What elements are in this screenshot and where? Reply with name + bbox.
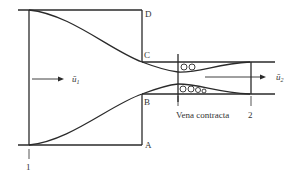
label-vena-contracta: Vena contracta	[176, 110, 229, 120]
u1-arrowhead-icon	[58, 77, 64, 82]
lower-jet-boundary	[178, 84, 250, 94]
upper-eddies-icon	[181, 64, 195, 70]
label-section-2: 2	[248, 110, 253, 120]
label-u1: ū1	[72, 74, 80, 85]
label-u2: ū2	[276, 72, 284, 83]
label-b: B	[144, 97, 150, 107]
label-c: C	[144, 50, 150, 60]
upper-nozzle-curve	[29, 10, 178, 72]
vena-contracta-diagram: D C B A 1 Vena contracta 2 ū1 ū2	[0, 0, 294, 177]
label-section-1: 1	[26, 162, 31, 172]
u2-arrowhead-icon	[260, 75, 266, 80]
lower-nozzle-curve	[29, 84, 178, 145]
label-a: A	[145, 140, 152, 150]
label-d: D	[145, 9, 152, 19]
